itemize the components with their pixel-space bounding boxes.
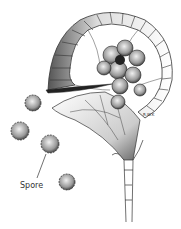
signature: R.W.K	[143, 112, 154, 117]
spore-3	[41, 135, 59, 153]
spore-4	[59, 174, 75, 190]
lower-lip	[52, 92, 140, 160]
spore-leader-line	[37, 154, 46, 178]
spore-label: Spore	[20, 181, 43, 190]
spore-2	[11, 122, 29, 140]
spore-1	[25, 95, 41, 111]
